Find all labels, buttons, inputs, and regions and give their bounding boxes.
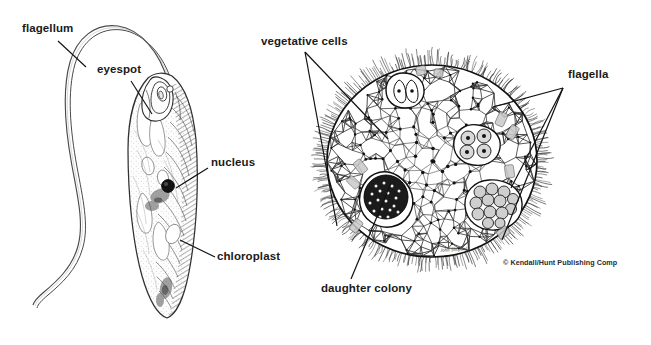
- nucleus-structure: [162, 180, 175, 193]
- label-vegetative-cells: vegetative cells: [261, 35, 348, 47]
- label-nucleus: nucleus: [211, 156, 255, 168]
- euglena-cell-body: [128, 73, 200, 318]
- label-eyespot: eyespot: [97, 63, 141, 75]
- daughter-colony-multicell: [465, 180, 522, 230]
- label-flagella: flagella: [568, 68, 608, 80]
- daughter-colony-four-cell: [454, 125, 501, 166]
- gonidium-top: [386, 73, 424, 108]
- volvox-colony-drawing: [310, 47, 553, 273]
- label-flagellum: flagellum: [22, 22, 73, 34]
- label-daughter-colony: daughter colony: [321, 282, 412, 294]
- biology-figure: flagellum eyespot nucleus chloroplast ve…: [0, 0, 651, 345]
- copyright-notice: © Kendall/Hunt Publishing Comp: [503, 258, 617, 267]
- label-chloroplast: chloroplast: [217, 250, 280, 262]
